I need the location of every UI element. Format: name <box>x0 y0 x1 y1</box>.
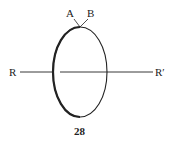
pointer-line-a <box>74 19 80 27</box>
label-r-prime: R′ <box>155 66 165 78</box>
label-r: R <box>9 66 17 78</box>
figure-caption: 28 <box>74 125 86 137</box>
diagram: A B R R′ 28 <box>0 0 176 145</box>
pointer-line-b <box>80 19 88 27</box>
label-b: B <box>87 7 94 19</box>
label-a: A <box>66 7 74 19</box>
